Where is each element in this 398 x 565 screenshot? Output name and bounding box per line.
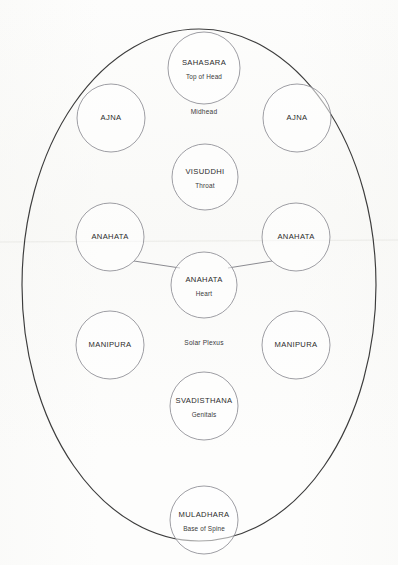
chakra-node-visuddhi[interactable]: VISUDDHIThroat — [172, 144, 238, 210]
chakra-node-ajna-left[interactable]: AJNA — [77, 84, 145, 152]
sahasara-circle[interactable] — [168, 32, 240, 104]
ajna-right-title: AJNA — [287, 113, 308, 122]
chakra-diagram-canvas: SAHASARATop of HeadAJNAAJNAVISUDDHIThroa… — [0, 0, 398, 565]
chakra-node-muladhara[interactable]: MULADHARABase of Spine — [170, 486, 238, 554]
link-anahata-right-center — [228, 261, 272, 268]
anahata-center-circle[interactable] — [171, 252, 237, 318]
chakra-node-anahata-right[interactable]: ANAHATA — [262, 203, 330, 271]
muladhara-title: MULADHARA — [179, 510, 230, 519]
anahata-center-title: ANAHATA — [185, 275, 223, 284]
anahata-right-title: ANAHATA — [277, 232, 315, 241]
ajna-left-title: AJNA — [101, 113, 122, 122]
chakra-node-anahata-left[interactable]: ANAHATA — [76, 203, 144, 271]
muladhara-circle[interactable] — [170, 486, 238, 554]
link-anahata-left-center — [134, 261, 180, 268]
visuddhi-title: VISUDDHI — [185, 167, 224, 176]
manipura-right-title: MANIPURA — [275, 340, 318, 349]
chakra-node-ajna-right[interactable]: AJNA — [263, 84, 331, 152]
label-solar-plexus: Solar Plexus — [184, 339, 224, 346]
svadisthana-title: SVADISTHANA — [176, 396, 233, 405]
visuddhi-circle[interactable] — [172, 144, 238, 210]
chakra-diagram: SAHASARATop of HeadAJNAAJNAVISUDDHIThroa… — [0, 0, 398, 565]
chakra-node-svadisthana[interactable]: SVADISTHANAGenitals — [170, 372, 238, 440]
sahasara-title: SAHASARA — [182, 58, 227, 67]
scan-artifact-layer — [0, 240, 398, 242]
sahasara-subtitle: Top of Head — [186, 73, 222, 81]
chakra-node-anahata-center[interactable]: ANAHATAHeart — [171, 252, 237, 318]
chakra-node-sahasara[interactable]: SAHASARATop of Head — [168, 32, 240, 104]
scan-line — [0, 240, 398, 242]
anahata-center-subtitle: Heart — [196, 290, 212, 297]
anahata-left-title: ANAHATA — [91, 232, 129, 241]
visuddhi-subtitle: Throat — [195, 182, 214, 189]
svadisthana-circle[interactable] — [170, 372, 238, 440]
chakra-node-manipura-left[interactable]: MANIPURA — [76, 311, 144, 379]
manipura-left-title: MANIPURA — [89, 340, 132, 349]
muladhara-subtitle: Base of Spine — [183, 525, 225, 533]
svadisthana-subtitle: Genitals — [192, 411, 217, 418]
chakra-node-manipura-right[interactable]: MANIPURA — [262, 311, 330, 379]
label-midhead: Midhead — [191, 108, 218, 115]
